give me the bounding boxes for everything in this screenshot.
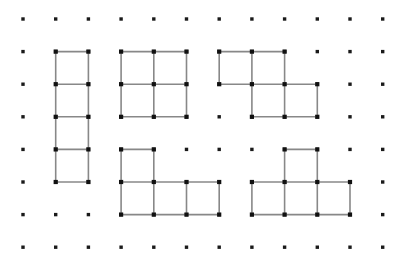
shape-vertex xyxy=(54,82,58,86)
shape-vertex xyxy=(250,82,254,86)
grid-dot xyxy=(87,213,90,216)
grid-dot xyxy=(54,17,57,20)
grid-dot xyxy=(87,17,90,20)
shape-vertex xyxy=(152,180,156,184)
grid-dot xyxy=(381,148,384,151)
grid-dot xyxy=(87,246,90,249)
grid-dot xyxy=(348,148,351,151)
grid-dot xyxy=(250,148,253,151)
grid-dot xyxy=(348,50,351,53)
shape-vertex xyxy=(217,180,221,184)
shape-vertex xyxy=(250,180,254,184)
grid-dot xyxy=(381,246,384,249)
grid-dot xyxy=(348,115,351,118)
polyomino-board xyxy=(0,0,413,271)
grid-dot xyxy=(348,246,351,249)
shape-vertex xyxy=(119,213,123,217)
shape-vertex xyxy=(315,213,319,217)
grid-dot xyxy=(250,17,253,20)
shape-vertex xyxy=(217,50,221,54)
grid-dot xyxy=(283,17,286,20)
shape-vertex xyxy=(54,50,58,54)
shape-vertex xyxy=(184,115,188,119)
grid-dot xyxy=(381,17,384,20)
shape-vertex xyxy=(315,115,319,119)
grid-dot xyxy=(152,246,155,249)
grid-dot xyxy=(381,213,384,216)
shape-vertex xyxy=(86,50,90,54)
shape-vertex xyxy=(315,147,319,151)
shape-vertex xyxy=(86,180,90,184)
shape-vertex xyxy=(283,180,287,184)
shape-vertex xyxy=(184,180,188,184)
grid-dot xyxy=(381,83,384,86)
grid-dot xyxy=(381,180,384,183)
grid-dot xyxy=(119,17,122,20)
grid-dot xyxy=(21,50,24,53)
shape-vertex xyxy=(86,147,90,151)
grid-dot xyxy=(152,17,155,20)
shape-vertex xyxy=(283,147,287,151)
grid-dot xyxy=(21,246,24,249)
shape-vertex xyxy=(152,147,156,151)
grid-dot xyxy=(348,83,351,86)
grid-dot xyxy=(316,50,319,53)
shape-vertex xyxy=(348,213,352,217)
shape-vertex xyxy=(119,115,123,119)
grid-dot xyxy=(218,246,221,249)
shape-vertex xyxy=(315,82,319,86)
shape-vertex xyxy=(119,180,123,184)
shape-vertex xyxy=(54,147,58,151)
grid-dot xyxy=(21,148,24,151)
shape-vertex xyxy=(86,82,90,86)
canvas-background xyxy=(0,0,413,271)
shape-vertex xyxy=(152,115,156,119)
shape-vertex xyxy=(119,147,123,151)
grid-dot xyxy=(21,17,24,20)
grid-dot xyxy=(283,246,286,249)
shape-vertex xyxy=(283,50,287,54)
grid-dot xyxy=(21,83,24,86)
grid-dot xyxy=(218,115,221,118)
grid-dot xyxy=(348,17,351,20)
grid-dot xyxy=(218,17,221,20)
shape-vertex xyxy=(119,82,123,86)
grid-dot xyxy=(218,148,221,151)
shape-vertex xyxy=(152,50,156,54)
shape-vertex xyxy=(348,180,352,184)
grid-dot xyxy=(381,50,384,53)
shape-vertex xyxy=(86,115,90,119)
shape-vertex xyxy=(250,115,254,119)
shape-vertex xyxy=(152,213,156,217)
shape-vertex xyxy=(217,213,221,217)
shape-vertex xyxy=(217,82,221,86)
shape-vertex xyxy=(54,180,58,184)
grid-dot xyxy=(185,246,188,249)
shape-vertex xyxy=(283,213,287,217)
shape-vertex xyxy=(283,115,287,119)
shape-vertex xyxy=(250,50,254,54)
grid-dot xyxy=(54,246,57,249)
shape-vertex xyxy=(184,82,188,86)
grid-dot xyxy=(21,115,24,118)
grid-dot xyxy=(54,213,57,216)
grid-dot xyxy=(250,246,253,249)
grid-dot xyxy=(381,115,384,118)
grid-dot xyxy=(185,17,188,20)
shape-vertex xyxy=(119,50,123,54)
shape-vertex xyxy=(283,82,287,86)
shape-vertex xyxy=(250,213,254,217)
dot-grid-canvas xyxy=(0,0,413,271)
shape-vertex xyxy=(54,115,58,119)
shape-vertex xyxy=(184,213,188,217)
grid-dot xyxy=(316,17,319,20)
shape-vertex xyxy=(184,50,188,54)
grid-dot xyxy=(316,246,319,249)
grid-dot xyxy=(21,180,24,183)
grid-dot xyxy=(119,246,122,249)
grid-dot xyxy=(21,213,24,216)
shape-vertex xyxy=(315,180,319,184)
shape-vertex xyxy=(152,82,156,86)
grid-dot xyxy=(185,148,188,151)
